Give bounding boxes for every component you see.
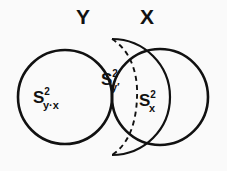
right-region-label: S2x [139, 91, 162, 112]
left-lobe-label: S2y·x [33, 88, 66, 109]
left-lobe-subscript: y·x [43, 99, 59, 111]
left-set-label: Y [76, 6, 90, 27]
right-set-label: X [140, 6, 154, 27]
overlap-upper-subscript: y′ [111, 81, 120, 93]
left-lobe-superscript: 2 [44, 86, 50, 97]
right-region-subscript: x [149, 102, 155, 114]
overlap-upper-superscript: 2 [112, 68, 118, 79]
right-region-superscript: 2 [150, 89, 156, 100]
venn-diagram-figure: Y X S2y·x S2y′ S2x [0, 0, 227, 171]
overlap-upper-label: S2y′ [101, 70, 127, 91]
